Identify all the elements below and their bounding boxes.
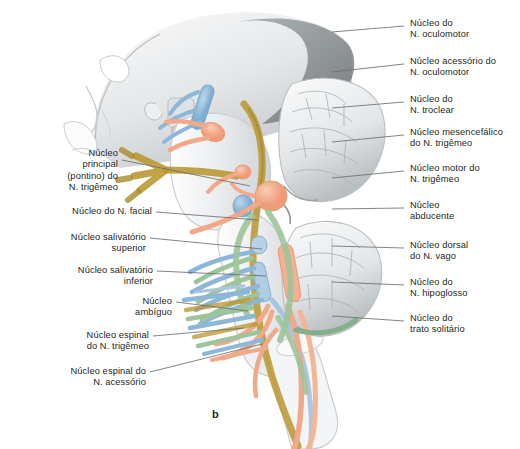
- label-spinal-trigeminal: Núcleo espinal do N. trigêmeo: [87, 330, 149, 353]
- label-superior-salivatory: Núcleo salivatório superior: [71, 232, 146, 255]
- label-motor-trigeminal: Núcleo motor do N. trigêmeo: [410, 163, 480, 186]
- leader-oculomotor: [332, 26, 404, 32]
- label-solitary-tract: Núcleo do trato solitário: [410, 313, 465, 336]
- label-trochlear: Núcleo do N. troclear: [410, 94, 454, 117]
- label-spinal-accessory: Núcleo espinal do N. acessório: [70, 366, 146, 389]
- label-abducens: Núcleo abducente: [410, 200, 454, 223]
- label-principal-pontine-trigeminal: Núcleo principal (pontino) do N. trigême…: [67, 148, 118, 194]
- label-facial: Núcleo do N. facial: [72, 206, 152, 217]
- leader-abducens: [332, 208, 404, 209]
- label-ambiguus: Núcleo ambíguo: [135, 296, 172, 319]
- label-hypoglossal: Núcleo do N. hipoglosso: [410, 277, 468, 300]
- figure-panel: Núcleo do N. oculomotorNúcleo acessório …: [0, 0, 520, 449]
- label-accessory-oculomotor: Núcleo acessório do N. oculomotor: [410, 56, 496, 79]
- label-mesencephalic-trigeminal: Núcleo mesencefálico do N. trigêmeo: [410, 127, 503, 150]
- label-inferior-salivatory: Núcleo salivatório inferior: [78, 265, 153, 288]
- label-oculomotor: Núcleo do N. oculomotor: [410, 18, 469, 41]
- panel-label: b: [212, 408, 219, 420]
- label-dorsal-vagus: Núcleo dorsal do N. vago: [410, 240, 468, 263]
